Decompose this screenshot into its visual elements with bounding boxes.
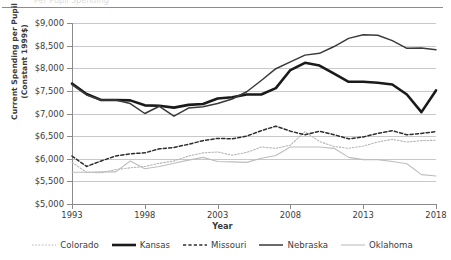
series-lines — [72, 23, 436, 204]
y-tick-label: $7,000 — [18, 109, 64, 119]
legend-label: Colorado — [60, 240, 98, 250]
x-axis-title: Year — [0, 221, 445, 231]
legend-swatch-icon — [32, 241, 56, 249]
series-line-colorado — [72, 132, 436, 173]
x-tick-label: 2018 — [416, 210, 451, 220]
legend-label: Nebraska — [287, 240, 328, 250]
x-tick — [72, 204, 73, 209]
legend-swatch-icon — [259, 241, 283, 249]
y-tick-label: $8,500 — [18, 41, 64, 51]
legend-item-nebraska[interactable]: Nebraska — [259, 240, 328, 250]
x-tick — [290, 204, 291, 209]
y-tick-label: $8,000 — [18, 63, 64, 73]
y-tick-label: $9,000 — [18, 18, 64, 28]
y-tick-label: $6,500 — [18, 131, 64, 141]
x-tick-label: 1993 — [52, 210, 92, 220]
legend-swatch-icon — [183, 241, 207, 249]
x-tick — [218, 204, 219, 209]
legend-item-missouri[interactable]: Missouri — [183, 240, 246, 250]
y-tick-label: $5,000 — [18, 199, 64, 209]
y-tick-label: $7,500 — [18, 86, 64, 96]
plot-area — [72, 23, 436, 204]
x-tick-label: 2003 — [198, 210, 238, 220]
series-line-kansas — [72, 63, 436, 112]
y-tick-label: $6,000 — [18, 154, 64, 164]
legend-label: Kansas — [140, 240, 170, 250]
legend-label: Oklahoma — [369, 240, 413, 250]
x-tick-label: 2013 — [343, 210, 383, 220]
x-tick — [363, 204, 364, 209]
legend-swatch-icon — [341, 241, 365, 249]
chart-legend: ColoradoKansasMissouriNebraskaOklahoma — [0, 240, 445, 250]
x-tick-label: 2008 — [270, 210, 310, 220]
legend-item-oklahoma[interactable]: Oklahoma — [341, 240, 413, 250]
legend-item-colorado[interactable]: Colorado — [32, 240, 98, 250]
x-tick — [145, 204, 146, 209]
x-tick — [436, 204, 437, 209]
legend-swatch-icon — [112, 241, 136, 249]
series-line-oklahoma — [72, 147, 436, 176]
cropped-title: Per Pupil Spending — [34, 0, 234, 5]
x-tick-label: 1998 — [125, 210, 165, 220]
legend-item-kansas[interactable]: Kansas — [112, 240, 170, 250]
y-tick-label: $5,500 — [18, 176, 64, 186]
series-line-nebraska — [72, 35, 436, 116]
x-axis-line — [72, 204, 437, 205]
top-rule — [2, 7, 443, 8]
legend-label: Missouri — [211, 240, 246, 250]
